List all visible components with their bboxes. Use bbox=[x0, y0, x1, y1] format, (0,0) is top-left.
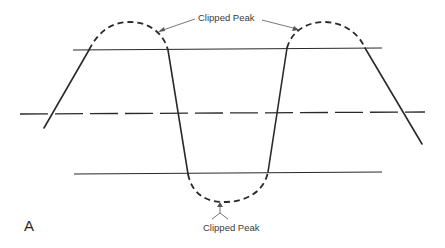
waveform-rising-edge-2 bbox=[268, 48, 287, 172]
clipped-waveform-diagram: Clipped Peak Clipped Peak A bbox=[0, 0, 445, 248]
lower-clip-line bbox=[74, 172, 382, 174]
top-annotation-label: Clipped Peak bbox=[198, 12, 255, 23]
panel-label: A bbox=[24, 217, 34, 234]
clipped-peak-top-1 bbox=[89, 22, 168, 50]
center-axis-line bbox=[20, 112, 425, 114]
waveform-falling-edge-1 bbox=[168, 50, 188, 174]
bottom-annotation-label: Clipped Peak bbox=[203, 222, 260, 233]
upper-clip-line bbox=[73, 48, 382, 50]
arrowhead-icon bbox=[158, 27, 165, 32]
clipped-peak-top-2 bbox=[287, 22, 365, 48]
top-annotation-arrow-right bbox=[262, 20, 297, 29]
bottom-annotation-arrow-leg-left bbox=[212, 213, 220, 219]
arrowhead-icon bbox=[217, 202, 223, 207]
bottom-annotation-arrow-leg-right bbox=[220, 213, 228, 219]
top-annotation-arrow-left bbox=[160, 19, 195, 31]
waveform-falling-edge-2 bbox=[365, 48, 422, 144]
waveform-rising-edge-1 bbox=[44, 50, 89, 128]
clipped-peak-bottom bbox=[188, 172, 268, 202]
